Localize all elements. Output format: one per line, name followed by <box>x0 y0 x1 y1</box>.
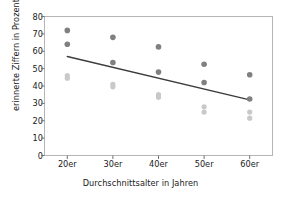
plot-area <box>0 0 281 202</box>
axis-frame <box>45 17 273 156</box>
chart-figure: erinnerte Ziffern in Prozent Durchschnit… <box>0 0 281 202</box>
dark-point-series <box>65 28 253 102</box>
light-point-series <box>65 73 253 121</box>
axis-ticks <box>41 17 250 160</box>
